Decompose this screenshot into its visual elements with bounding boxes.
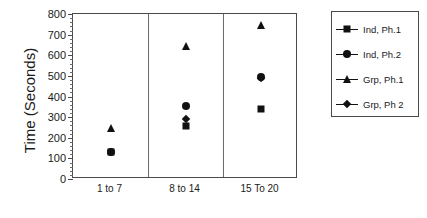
legend-label: Ind, Ph.1 [363,24,401,35]
y-axis-minor-tick [70,84,73,85]
panel-divider [223,14,224,177]
y-axis-tick [68,55,73,56]
y-axis-tick [68,179,73,180]
y-axis-minor-tick [70,92,73,93]
y-axis-minor-tick [70,68,73,69]
y-axis-minor-tick [70,18,73,19]
legend-marker-glyph [344,26,351,33]
legend-marker-triangle-icon [336,74,358,85]
x-axis-category-label: 15 To 20 [240,183,278,194]
y-axis-minor-tick [70,142,73,143]
y-axis-minor-tick [70,125,73,126]
legend-item: Ind, Ph.2 [336,48,401,60]
y-axis-minor-tick [70,22,73,23]
y-axis-minor-tick [70,167,73,168]
chart-figure: Time (Seconds) 0100200300400500600700800… [0,0,427,218]
data-point-triangle [107,124,115,132]
y-axis-minor-tick [70,134,73,135]
y-axis-title: Time (Seconds) [21,16,38,186]
legend-label: Ind, Ph.2 [363,49,401,60]
y-axis-minor-tick [70,39,73,40]
y-axis-tick [68,158,73,159]
y-axis-minor-tick [70,121,73,122]
y-axis-minor-tick [70,59,73,60]
y-axis-minor-tick [70,109,73,110]
legend-label: Grp, Ph.1 [363,74,404,85]
data-point-circle [182,102,190,110]
chart-legend: Ind, Ph.1Ind, Ph.2Grp, Ph.1Grp, Ph 2 [331,11,419,117]
y-axis-tick-label: 300 [48,111,66,123]
y-axis-tick-label: 200 [48,132,66,144]
y-axis-tick [68,138,73,139]
legend-label: Grp, Ph 2 [363,99,404,110]
y-axis-tick [68,35,73,36]
y-axis-minor-tick [70,105,73,106]
panel-divider [148,14,149,177]
y-axis-minor-tick [70,51,73,52]
legend-marker-square-icon [336,24,358,35]
y-axis-minor-tick [70,88,73,89]
y-axis-minor-tick [70,171,73,172]
legend-marker-glyph [343,50,351,58]
y-axis-tick-label: 400 [48,91,66,103]
y-axis-tick-label: 500 [48,70,66,82]
y-axis-minor-tick [70,101,73,102]
y-axis-tick-label: 800 [48,8,66,20]
legend-item: Grp, Ph 2 [336,98,404,110]
y-axis-tick [68,117,73,118]
x-axis-category-label: 1 to 7 [97,183,122,194]
y-axis-tick-label: 0 [60,173,66,185]
data-point-triangle [182,42,190,50]
plot-area: 0100200300400500600700800 [72,13,297,178]
y-axis-minor-tick [70,31,73,32]
y-axis-minor-tick [70,150,73,151]
y-axis-tick [68,76,73,77]
data-point-square [257,105,264,112]
data-point-triangle [257,21,265,29]
y-axis-tick-label: 700 [48,29,66,41]
y-axis-minor-tick [70,146,73,147]
y-axis-tick [68,97,73,98]
y-axis-tick-label: 600 [48,49,66,61]
y-axis-minor-tick [70,113,73,114]
y-axis-tick [68,14,73,15]
y-axis-minor-tick [70,154,73,155]
y-axis-minor-tick [70,43,73,44]
y-axis-minor-tick [70,47,73,48]
legend-marker-glyph [343,100,351,108]
y-axis-minor-tick [70,175,73,176]
y-axis-tick-label: 100 [48,152,66,164]
legend-item: Ind, Ph.1 [336,23,401,35]
y-axis-minor-tick [70,64,73,65]
y-axis-minor-tick [70,130,73,131]
x-axis-category-label: 8 to 14 [169,183,200,194]
y-axis-minor-tick [70,163,73,164]
legend-item: Grp, Ph.1 [336,73,404,85]
y-axis-minor-tick [70,80,73,81]
legend-marker-circle-icon [336,49,358,60]
y-axis-minor-tick [70,72,73,73]
legend-marker-glyph [343,75,351,83]
legend-marker-diamond-icon [336,99,358,110]
y-axis-minor-tick [70,26,73,27]
